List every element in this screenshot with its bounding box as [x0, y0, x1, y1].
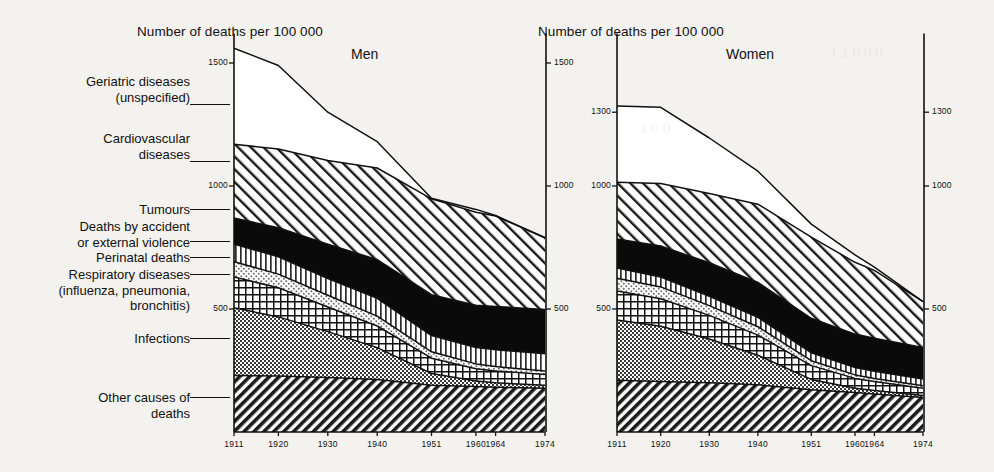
x-tick-label: 1930: [318, 439, 338, 449]
x-tick-label: 1951: [421, 439, 441, 449]
x-tick-label: 1960: [845, 439, 865, 449]
x-tick-label: 1920: [268, 439, 288, 449]
y-tick-label: 1000: [573, 180, 611, 190]
chart-men: [0, 0, 994, 472]
y-tick-label-right: 1300: [932, 106, 952, 116]
y-tick-label: 500: [190, 303, 228, 313]
x-tick-label: 1951: [801, 439, 821, 449]
y-tick-label-right: 1000: [932, 180, 952, 190]
x-tick-label: 1911: [607, 439, 626, 449]
x-tick-label: 1911: [224, 439, 243, 449]
figure-root: Geriatric diseases (unspecified)Cardiova…: [0, 0, 994, 472]
x-tick-label: 1940: [367, 439, 387, 449]
y-tick-label-right: 500: [932, 303, 947, 313]
x-tick-label: 1930: [699, 439, 719, 449]
x-tick-label: 1920: [651, 439, 671, 449]
y-tick-label: 500: [573, 303, 611, 313]
y-tick-label: 1300: [573, 106, 611, 116]
x-tick-label: 1940: [748, 439, 768, 449]
x-tick-label: 1974: [913, 439, 933, 449]
x-tick-label: 1964: [864, 439, 884, 449]
x-tick-label: 1960: [466, 439, 486, 449]
y-tick-label: 1500: [190, 57, 228, 67]
x-tick-label: 1964: [486, 439, 506, 449]
y-tick-label: 1000: [190, 180, 228, 190]
y-tick-label-right: 1000: [554, 180, 574, 190]
x-tick-label: 1974: [535, 439, 555, 449]
y-tick-label-right: 500: [554, 303, 569, 313]
y-tick-label-right: 1500: [554, 57, 574, 67]
